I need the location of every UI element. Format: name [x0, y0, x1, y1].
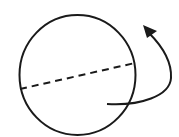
- arrowhead-icon: [143, 25, 157, 38]
- rotation-arrow: [107, 33, 171, 104]
- sphere-rotation-diagram: [0, 0, 179, 137]
- sphere-outline: [20, 15, 136, 135]
- equator-line: [20, 63, 135, 89]
